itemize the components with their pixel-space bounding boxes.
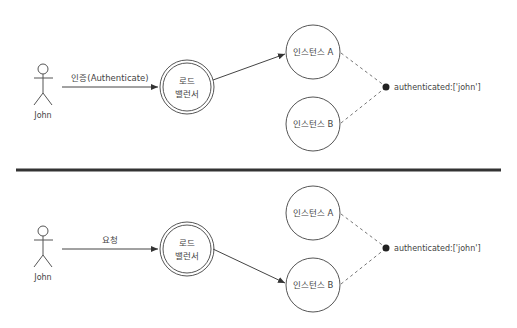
session-label: authenticated:['john'] bbox=[394, 244, 481, 253]
session-label: authenticated:['john'] bbox=[394, 83, 481, 92]
instance-a-label: 인스턴스 A bbox=[293, 47, 334, 57]
load-balancer-label-line2: 밸런서 bbox=[175, 251, 199, 261]
load-balancer-label-line2: 밸런서 bbox=[175, 89, 199, 99]
top-panel: John 인증(Authenticate) 로드 밸런서 인스턴스 A 인스턴스… bbox=[33, 25, 480, 151]
diagram-canvas: John 인증(Authenticate) 로드 밸런서 인스턴스 A 인스턴스… bbox=[0, 0, 517, 328]
instance-a-node: 인스턴스 A bbox=[286, 186, 340, 240]
load-balancer-label-line1: 로드 bbox=[179, 238, 195, 248]
dashed-link-a bbox=[341, 214, 385, 247]
actor-label: John bbox=[33, 273, 51, 282]
dashed-link-b bbox=[341, 249, 385, 284]
dashed-link-b bbox=[341, 88, 385, 123]
actor-head-icon bbox=[38, 226, 48, 236]
actor-john-bottom bbox=[34, 226, 53, 267]
bottom-panel: John 요청 로드 밸런서 인스턴스 A 인스턴스 B authenticat… bbox=[33, 186, 480, 312]
load-balancer-node: 로드 밸런서 bbox=[160, 222, 214, 276]
instance-a-node: 인스턴스 A bbox=[286, 25, 340, 79]
instance-b-node: 인스턴스 B bbox=[286, 97, 340, 151]
session-dot-icon bbox=[383, 245, 390, 252]
instance-b-label: 인스턴스 B bbox=[293, 119, 334, 129]
instance-b-label: 인스턴스 B bbox=[293, 280, 334, 290]
session-dot-icon bbox=[383, 84, 390, 91]
load-balancer-node: 로드 밸런서 bbox=[160, 60, 214, 114]
load-balancer-label-line1: 로드 bbox=[179, 76, 195, 86]
actor-john-top bbox=[34, 64, 53, 105]
instance-b-node: 인스턴스 B bbox=[286, 258, 340, 312]
arrow-label: 인증(Authenticate) bbox=[71, 73, 148, 83]
route-arrow bbox=[213, 249, 285, 283]
route-arrow bbox=[213, 54, 285, 80]
actor-head-icon bbox=[38, 64, 48, 74]
dashed-link-a bbox=[341, 53, 385, 86]
instance-a-label: 인스턴스 A bbox=[293, 208, 334, 218]
arrow-label: 요청 bbox=[102, 235, 118, 245]
actor-label: John bbox=[33, 111, 51, 120]
